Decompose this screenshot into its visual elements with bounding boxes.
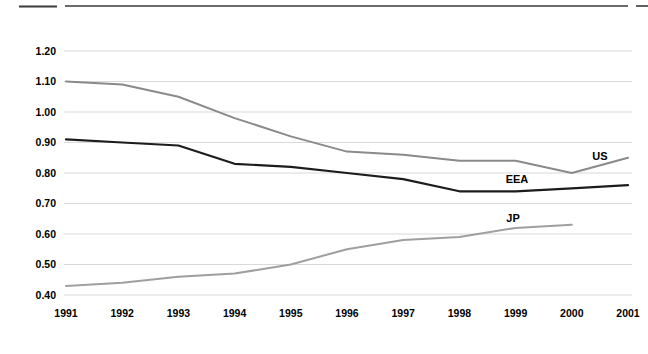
x-tick-label: 2001 (616, 307, 640, 319)
x-tick-label: 1995 (279, 307, 303, 319)
series-label-jp: JP (506, 212, 519, 224)
series-line-us (66, 82, 628, 174)
x-tick-label: 1991 (54, 307, 78, 319)
x-tick-label: 1997 (392, 307, 416, 319)
y-tick-label: 0.70 (36, 197, 57, 209)
x-tick-label: 2000 (560, 307, 584, 319)
x-tick-label: 1993 (167, 307, 191, 319)
series-label-eea: EEA (506, 173, 529, 185)
y-tick-label: 0.50 (36, 258, 57, 270)
x-tick-label: 1999 (504, 307, 528, 319)
line-chart: 1.201.101.000.900.800.700.600.500.40 199… (0, 0, 648, 354)
y-tick-label: 1.10 (36, 75, 57, 87)
x-tick-label: 1994 (223, 307, 247, 319)
x-axis-tick-labels: 1991199219931994199519961997199819992000… (54, 307, 640, 319)
y-axis-tick-labels: 1.201.101.000.900.800.700.600.500.40 (36, 45, 57, 301)
figure-page: 1.201.101.000.900.800.700.600.500.40 199… (0, 0, 648, 354)
y-tick-label: 0.90 (36, 136, 57, 148)
x-tick-label: 1992 (111, 307, 135, 319)
y-tick-label: 1.20 (36, 45, 57, 57)
y-tick-label: 0.80 (36, 167, 57, 179)
series-label-us: US (592, 150, 607, 162)
y-tick-label: 0.40 (36, 289, 57, 301)
x-tick-label: 1998 (448, 307, 472, 319)
y-tick-label: 0.60 (36, 228, 57, 240)
x-tick-label: 1996 (335, 307, 359, 319)
y-tick-label: 1.00 (36, 106, 57, 118)
series-line-eea (66, 139, 628, 191)
